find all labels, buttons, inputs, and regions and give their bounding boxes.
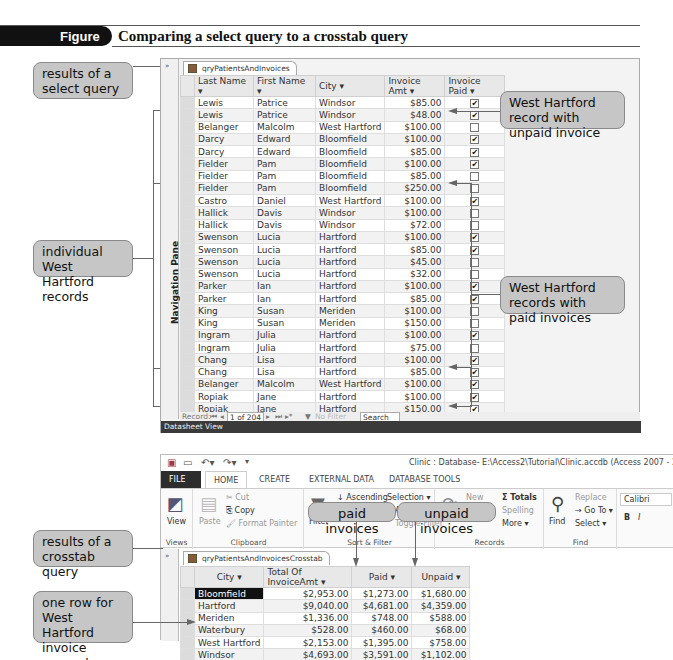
table-cell[interactable]: Hartford — [316, 354, 385, 366]
redo-icon[interactable]: ↷▾ — [223, 457, 236, 468]
record-selector[interactable] — [181, 207, 195, 219]
table-cell[interactable]: Pam — [254, 182, 316, 194]
column-header-total-invoice-amt[interactable]: Total Of InvoiceAmt ▾ — [264, 567, 352, 588]
record-selector[interactable] — [181, 219, 195, 231]
table-cell[interactable]: Pam — [254, 158, 316, 170]
table-cell[interactable]: Lucia — [254, 268, 316, 280]
table-cell[interactable]: West Hartford — [316, 121, 385, 133]
table-cell[interactable]: $4,359.00 — [412, 600, 470, 612]
column-header-invoice-amt[interactable]: Invoice Amt ▾ — [385, 76, 445, 97]
table-cell[interactable]: West Hartford — [316, 195, 385, 207]
spelling-button[interactable]: Spelling — [502, 506, 534, 515]
record-selector[interactable] — [181, 280, 195, 292]
unchecked-checkbox[interactable] — [470, 123, 479, 132]
table-cell[interactable]: Hartford — [316, 256, 385, 268]
table-cell[interactable]: Fielder — [195, 182, 254, 194]
table-cell[interactable]: Bloomfield — [316, 182, 385, 194]
table-cell[interactable]: Hartford — [316, 329, 385, 341]
view-icon[interactable]: ◩ — [167, 493, 184, 514]
tab-file[interactable]: FILE — [161, 471, 201, 488]
record-selector[interactable] — [181, 158, 195, 170]
table-cell[interactable]: $100.00 — [385, 207, 445, 219]
table-row[interactable]: KingSusanMeriden$150.00 — [181, 317, 505, 329]
table-row[interactable]: IngramJuliaHartford$75.00 — [181, 342, 505, 354]
table-cell[interactable]: $4,693.00 — [264, 649, 352, 660]
previous-record-button[interactable]: ◂ — [220, 412, 224, 421]
format-painter-button[interactable]: 🖌 Format Painter — [226, 519, 297, 528]
new-record-button[interactable]: New — [466, 493, 483, 502]
paste-button[interactable]: Paste — [199, 517, 221, 526]
table-row[interactable]: HallickDavisWindsor$100.00 — [181, 207, 505, 219]
tab-home[interactable]: HOME — [205, 471, 247, 488]
table-cell[interactable]: Hartford — [316, 231, 385, 243]
table-row[interactable]: CastroDanielWest Hartford$100.00✔ — [181, 195, 505, 207]
tab-database-tools[interactable]: DATABASE TOOLS — [381, 471, 468, 488]
table-row[interactable]: HallickDavisWindsor$72.00 — [181, 219, 505, 231]
record-selector[interactable] — [181, 109, 195, 121]
table-cell[interactable]: Meriden — [316, 305, 385, 317]
table-cell[interactable]: $3,591.00 — [352, 649, 412, 660]
table-cell[interactable]: Windsor — [195, 649, 264, 660]
table-cell[interactable]: West Hartford — [316, 378, 385, 390]
table-cell[interactable]: Bloomfield — [316, 133, 385, 145]
table-row[interactable]: BelangerMalcolmWest Hartford$100.00✔ — [181, 378, 505, 390]
checked-checkbox[interactable]: ✔ — [470, 111, 479, 120]
table-cell[interactable]: Lucia — [254, 256, 316, 268]
table-cell[interactable]: Windsor — [316, 109, 385, 121]
table-cell[interactable]: Fielder — [195, 158, 254, 170]
table-cell[interactable]: Castro — [195, 195, 254, 207]
table-cell[interactable]: Ingram — [195, 329, 254, 341]
record-selector[interactable] — [181, 649, 195, 660]
new-record-button[interactable]: ▸* — [285, 412, 293, 421]
table-cell[interactable]: $1,102.00 — [412, 649, 470, 660]
table-cell[interactable]: $72.00 — [385, 219, 445, 231]
table-cell[interactable]: $100.00 — [385, 280, 445, 292]
navigation-pane[interactable]: » Navigation Pane — [161, 59, 179, 419]
record-selector[interactable] — [181, 342, 195, 354]
table-row[interactable]: RopiakJaneHartford$100.00✔ — [181, 391, 505, 403]
expand-chevron-icon[interactable]: » — [165, 552, 169, 560]
table-cell[interactable]: $100.00 — [385, 133, 445, 145]
totals-button[interactable]: Σ Totals — [502, 493, 537, 502]
table-cell[interactable]: West Hartford — [195, 637, 264, 649]
table-cell[interactable]: Hartford — [316, 391, 385, 403]
table-cell[interactable]: $460.00 — [352, 624, 412, 636]
table-cell[interactable]: Swenson — [195, 231, 254, 243]
table-row[interactable]: LewisPatriceWindsor$85.00✔ — [181, 97, 505, 109]
table-cell[interactable]: $100.00 — [385, 354, 445, 366]
table-cell[interactable]: Lucia — [254, 231, 316, 243]
table-cell[interactable]: $1,680.00 — [412, 588, 470, 600]
record-selector[interactable] — [181, 317, 195, 329]
record-selector[interactable] — [181, 588, 195, 600]
table-cell[interactable]: Belanger — [195, 378, 254, 390]
table-cell[interactable]: $85.00 — [385, 293, 445, 305]
table-row[interactable]: West Hartford$2,153.00$1,395.00$758.00 — [181, 637, 470, 649]
table-cell[interactable]: Lewis — [195, 97, 254, 109]
table-cell[interactable]: $85.00 — [385, 146, 445, 158]
table-cell[interactable]: $75.00 — [385, 342, 445, 354]
checked-checkbox[interactable]: ✔ — [470, 135, 479, 144]
table-cell[interactable]: Ian — [254, 280, 316, 292]
record-selector[interactable] — [181, 268, 195, 280]
record-selector[interactable] — [181, 231, 195, 243]
record-selector[interactable] — [181, 378, 195, 390]
column-header-paid[interactable]: Paid ▾ — [352, 567, 412, 588]
table-cell[interactable]: Chang — [195, 366, 254, 378]
record-selector[interactable] — [181, 97, 195, 109]
table-cell[interactable]: $85.00 — [385, 170, 445, 182]
table-cell[interactable]: Hartford — [195, 600, 264, 612]
customize-qat-icon[interactable]: ▾ — [245, 457, 249, 466]
table-cell[interactable]: $9,040.00 — [264, 600, 352, 612]
table-cell[interactable]: Malcolm — [254, 121, 316, 133]
record-selector[interactable] — [181, 170, 195, 182]
table-cell[interactable]: $528.00 — [264, 624, 352, 636]
no-filter-button[interactable]: No Filter — [315, 412, 346, 421]
select-all-corner[interactable] — [181, 76, 195, 97]
tab-qry-patients-and-invoices[interactable]: qryPatientsAndInvoices — [183, 61, 297, 75]
checked-checkbox[interactable]: ✔ — [470, 148, 479, 157]
table-cell[interactable]: $588.00 — [412, 612, 470, 624]
column-header-unpaid[interactable]: Unpaid ▾ — [412, 567, 470, 588]
table-cell[interactable]: $32.00 — [385, 268, 445, 280]
table-row[interactable]: FielderPamBloomfield$100.00✔ — [181, 158, 505, 170]
expand-chevron-icon[interactable]: » — [165, 62, 169, 70]
